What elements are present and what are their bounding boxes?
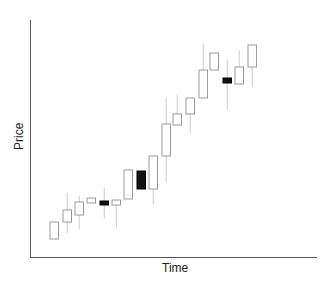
candle-body [248,45,257,67]
candle-body [162,124,171,156]
candle-body [137,171,146,189]
candle-body [149,156,158,189]
candle-body [186,98,195,114]
candle-body [50,222,59,239]
y-axis-label: Price [12,123,26,150]
candlestick-chart [0,0,333,285]
candle-body [235,67,244,84]
candle-body [223,78,232,83]
candle-body [112,200,121,205]
candle-body [75,202,84,215]
candle-body [87,198,96,203]
candle-body [210,53,219,70]
candle-body [173,114,182,125]
x-axis-label: Time [162,261,188,275]
candle-body [63,210,72,222]
candles-group [50,44,257,239]
candle-body [100,201,109,205]
candle-body [199,70,208,98]
candle-body [124,170,133,199]
